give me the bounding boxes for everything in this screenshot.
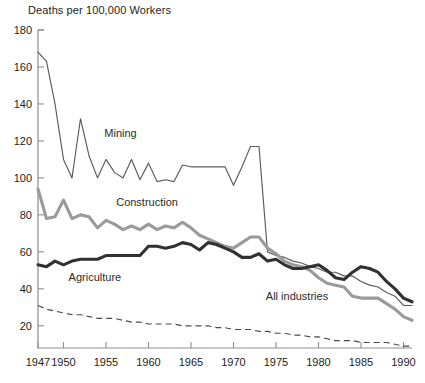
agriculture-label: Agriculture: [69, 271, 122, 283]
axes-group: [38, 30, 412, 348]
chart-container: Deaths per 100,000 Workers 1801601401201…: [0, 0, 425, 383]
x-tick-label: 1960: [136, 356, 160, 368]
axis-lines: [38, 30, 412, 348]
y-tick-label: 180: [14, 24, 32, 36]
y-tick-label: 40: [20, 283, 32, 295]
series-line-all-industries: [38, 305, 412, 346]
y-tick-label: 20: [20, 320, 32, 332]
data-series-group: [38, 52, 412, 346]
y-tick-label: 160: [14, 61, 32, 73]
all-industries-label: All industries: [266, 290, 329, 302]
x-tick-label: 1970: [221, 356, 245, 368]
x-tick-label: 1985: [349, 356, 373, 368]
x-tick-label: 1955: [94, 356, 118, 368]
x-tick-label: 1980: [306, 356, 330, 368]
x-tick-label: 1975: [264, 356, 288, 368]
y-tick-label: 140: [14, 98, 32, 110]
series-line-construction: [38, 189, 412, 320]
y-tick-label: 80: [20, 209, 32, 221]
mining-label: Mining: [104, 127, 136, 139]
x-tick-label: 1947: [26, 356, 50, 368]
x-tick-label: 1965: [179, 356, 203, 368]
series-line-mining: [38, 52, 412, 305]
x-tick-group: 1947195019551960196519701975198019851990: [26, 342, 416, 368]
y-tick-label: 60: [20, 246, 32, 258]
x-tick-label: 1950: [51, 356, 75, 368]
y-tick-label: 100: [14, 172, 32, 184]
series-annotation-group: MiningConstructionAgricultureAll industr…: [69, 127, 329, 302]
y-tick-group: 18016014012010080604020: [14, 24, 44, 332]
y-tick-label: 120: [14, 135, 32, 147]
x-tick-label: 1990: [391, 356, 415, 368]
chart-plot-area: 18016014012010080604020 1947195019551960…: [0, 0, 425, 383]
construction-label: Construction: [116, 196, 178, 208]
